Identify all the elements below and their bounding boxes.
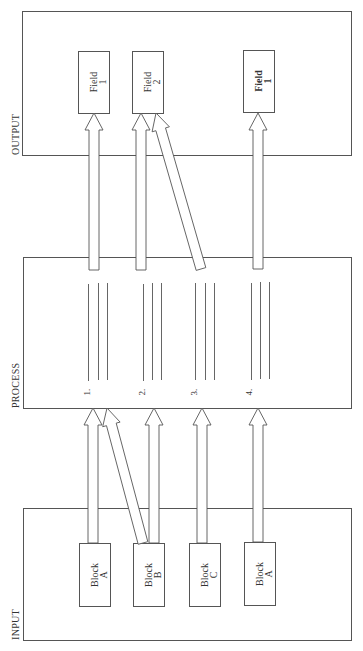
input-section-label: INPUT [10,609,21,640]
arrow-block-c-to-step-3 [193,408,211,543]
arrow-step-1-to-field-1 [85,113,103,270]
input-block: Block C [190,544,221,607]
input-block-letter: C [208,571,219,578]
arrow-step-4-to-field-3 [249,113,267,269]
output-field-number: 1 [262,79,273,84]
arrow-block-a2-to-step-4 [249,408,267,542]
process-step: 2. [137,283,162,395]
process-step: 3. [189,283,215,395]
input-block-letter: B [152,571,163,578]
output-field: Field 1 [244,51,275,113]
input-block-letter: A [98,571,109,579]
data-flow-diagram: OUTPUT PROCESS INPUT Field 1 Field 2 Fie… [0,0,363,651]
process-step: 1. [82,283,108,395]
input-block: Block A [245,543,276,606]
arrow-block-a-to-step-1 [84,408,102,543]
output-section-label: OUTPUT [10,114,21,155]
output-field: Field 1 [79,52,110,114]
arrow-step-3-to-field-2 [152,113,206,270]
process-step-number: 3. [189,389,199,396]
output-section-box [23,12,352,156]
arrow-block-b-to-step-1 [103,408,148,544]
arrow-step-2-to-field-2 [132,113,150,270]
process-step-number: 2. [137,389,147,396]
input-section-box [24,509,352,641]
process-step-number: 1. [82,389,92,396]
process-step-number: 4. [244,389,254,396]
process-step: 4. [244,282,270,395]
input-block: Block B [134,544,165,607]
arrows-layer [84,113,267,544]
input-block: Block A [80,544,111,607]
process-section-label: PROCESS [10,363,21,408]
output-field-number: 1 [97,80,108,85]
input-block-letter: A [263,570,274,578]
output-field: Field 2 [133,52,164,114]
arrow-block-b-to-step-2 [145,408,163,543]
process-section-box [24,258,352,409]
output-field-number: 2 [151,80,162,85]
